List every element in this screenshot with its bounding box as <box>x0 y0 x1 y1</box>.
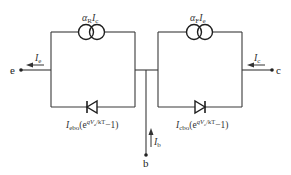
left-loop <box>51 32 135 107</box>
collector-current-arrow-icon <box>247 63 265 68</box>
emitter-diode-label: Iebo(eqVe/kT−1) <box>65 118 118 132</box>
collector-node-dot <box>270 68 274 72</box>
collector-terminal-label: c <box>276 64 281 76</box>
collector-current-label: Ic <box>253 52 260 65</box>
reverse-source-label: αRIc <box>82 12 98 25</box>
right-loop <box>158 32 242 107</box>
base-terminal-label: b <box>143 157 149 169</box>
base-current-label: Ib <box>153 136 161 149</box>
forward-source-label: αFIe <box>190 12 206 25</box>
current-source-forward-icon <box>187 25 213 40</box>
emitter-current-label: Ie <box>34 52 41 65</box>
ebers-moll-circuit: αRIc αFIe Iebo(eqVe/kT−1) Icbo(eqVc/kT−1… <box>0 0 291 175</box>
emitter-terminal-label: e <box>10 64 15 76</box>
base-current-arrow-icon <box>149 128 154 147</box>
collector-diode-label: Icbo(eqVc/kT−1) <box>175 118 228 132</box>
collector-diode-icon <box>195 101 205 113</box>
emitter-node-dot <box>19 68 23 72</box>
current-source-reverse-icon <box>79 25 105 40</box>
emitter-diode-icon <box>87 101 97 113</box>
